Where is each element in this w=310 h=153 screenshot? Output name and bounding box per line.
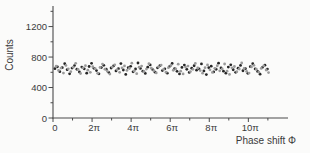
data-point	[267, 71, 270, 74]
data-point	[206, 64, 209, 67]
data-point	[167, 66, 170, 69]
data-point	[77, 68, 80, 71]
data-point	[91, 65, 94, 68]
data-point	[174, 68, 177, 71]
data-point	[128, 67, 131, 70]
data-point	[54, 67, 57, 70]
data-point	[155, 72, 158, 75]
data-point	[218, 69, 221, 72]
data-point	[82, 66, 85, 69]
data-point	[116, 68, 119, 71]
data-point	[176, 70, 179, 73]
data-point	[64, 64, 67, 67]
data-point	[57, 69, 60, 72]
data-point	[104, 68, 107, 71]
data-points	[54, 62, 270, 76]
x-tick-label: 10π	[242, 122, 260, 133]
data-point	[250, 66, 253, 69]
data-point	[74, 62, 77, 65]
data-point	[240, 62, 243, 65]
data-point	[182, 73, 185, 76]
data-point	[248, 72, 251, 75]
y-tick-label: 400	[31, 82, 47, 93]
data-point	[200, 63, 203, 66]
data-point	[253, 64, 256, 67]
data-point	[209, 68, 212, 71]
data-point	[217, 62, 220, 65]
data-point	[204, 66, 207, 69]
data-point	[157, 65, 160, 68]
y-tick-label: 800	[31, 52, 47, 63]
data-point	[235, 70, 238, 73]
data-point	[126, 69, 129, 72]
data-point	[101, 63, 104, 66]
data-point	[96, 72, 99, 75]
data-point	[213, 67, 216, 70]
data-point	[181, 66, 184, 69]
y-tick-label: 0	[42, 113, 47, 124]
data-point	[194, 62, 197, 65]
data-point	[130, 62, 133, 65]
data-point	[179, 70, 182, 73]
data-point	[108, 73, 111, 76]
data-point	[113, 63, 116, 66]
data-point	[60, 67, 63, 70]
data-point	[243, 67, 246, 70]
data-point	[90, 62, 93, 65]
counts-vs-phase-scatter-chart: 02π4π6π8π10π 04008001200 Counts Phase sh…	[0, 0, 310, 153]
data-point	[221, 67, 224, 70]
x-tick-label: 6π	[166, 122, 178, 133]
data-point	[169, 64, 172, 67]
data-point	[89, 71, 92, 74]
x-tick-label: 8π	[205, 122, 217, 133]
data-point	[94, 67, 97, 70]
data-point	[137, 62, 140, 65]
data-point	[216, 64, 219, 67]
data-point	[211, 71, 214, 74]
data-point	[72, 66, 75, 69]
data-point	[231, 66, 234, 69]
data-point	[140, 65, 143, 68]
data-point	[205, 73, 208, 76]
data-point	[138, 66, 141, 69]
data-point	[85, 72, 88, 75]
data-point	[69, 70, 72, 73]
y-tick-label: 1200	[26, 21, 47, 32]
data-point	[88, 65, 91, 68]
data-point	[135, 72, 138, 75]
data-point	[106, 70, 109, 73]
data-point	[260, 67, 263, 70]
data-point	[229, 63, 232, 66]
data-point	[223, 63, 226, 66]
data-point	[145, 68, 148, 71]
data-point	[55, 65, 58, 68]
data-point	[239, 64, 242, 67]
interference-counts-figure: 02π4π6π8π10π 04008001200 Counts Phase sh…	[0, 0, 310, 153]
data-point	[111, 66, 114, 69]
data-point	[162, 68, 165, 71]
data-point	[84, 64, 87, 67]
data-point	[150, 67, 153, 70]
data-point	[226, 70, 229, 73]
data-point	[210, 65, 213, 68]
data-point	[99, 66, 102, 69]
data-point	[121, 67, 124, 70]
data-point	[148, 62, 151, 65]
data-point	[133, 70, 136, 73]
x-tick-label: 0	[52, 122, 57, 133]
data-point	[255, 68, 258, 71]
data-point	[177, 63, 180, 66]
data-point	[227, 66, 230, 69]
data-point	[143, 70, 146, 73]
x-tick-labels: 02π4π6π8π10π	[52, 122, 259, 133]
data-point	[233, 65, 236, 68]
data-point	[118, 71, 121, 74]
data-point	[189, 70, 192, 73]
data-point	[222, 70, 225, 73]
data-point	[62, 72, 65, 75]
data-point	[201, 72, 204, 75]
data-point	[124, 73, 127, 76]
data-point	[245, 70, 248, 73]
y-axis-label: Counts	[4, 39, 15, 71]
data-point	[199, 69, 202, 72]
